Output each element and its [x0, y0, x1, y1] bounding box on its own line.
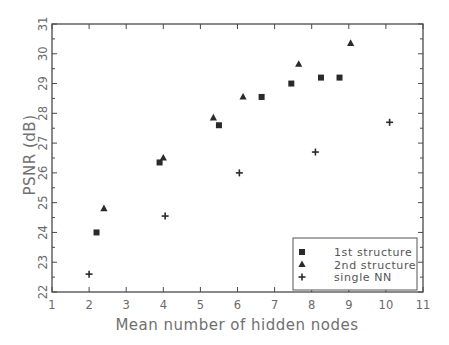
y-tick-label: 23 — [36, 255, 50, 270]
square-marker — [94, 229, 100, 235]
x-tick-label: 9 — [345, 298, 352, 312]
legend: 1st structure2nd structuresingle NN — [293, 238, 417, 290]
legend-label: 2nd structure — [334, 259, 416, 272]
triangle-marker — [210, 114, 217, 121]
y-axis-label: PSNR (dB) — [21, 115, 39, 196]
x-tick-label: 7 — [271, 298, 278, 312]
y-tick-label: 24 — [36, 225, 50, 240]
plus-marker — [386, 119, 393, 126]
x-tick-label: 3 — [123, 298, 130, 312]
psnr-scatter-chart: 1234567891011 22232425262728293031 Mean … — [0, 0, 449, 345]
x-tick-label: 5 — [197, 298, 204, 312]
legend-label: 1st structure — [334, 246, 412, 259]
legend-square-icon — [299, 249, 305, 255]
square-marker — [318, 75, 324, 81]
plus-marker — [86, 271, 93, 278]
y-tick-label: 29 — [36, 76, 50, 91]
plus-marker — [312, 149, 319, 156]
triangle-marker — [239, 93, 246, 100]
y-tick-label: 31 — [36, 17, 50, 32]
y-tick-label: 22 — [36, 285, 50, 300]
x-tick-label: 4 — [160, 298, 167, 312]
legend-label: single NN — [334, 271, 392, 284]
triangle-marker — [160, 154, 167, 161]
x-tick-label: 8 — [308, 298, 315, 312]
x-tick-label: 6 — [234, 298, 241, 312]
y-tick-label: 30 — [36, 46, 50, 61]
triangle-marker — [347, 39, 354, 46]
plus-marker — [236, 169, 243, 176]
triangle-marker — [295, 60, 302, 67]
plus-marker — [162, 213, 169, 220]
x-tick-label: 2 — [85, 298, 92, 312]
square-marker — [288, 81, 294, 87]
y-tick-label: 25 — [36, 195, 50, 210]
square-marker — [259, 94, 265, 100]
x-tick-labels: 1234567891011 — [48, 298, 430, 312]
x-tick-label: 10 — [379, 298, 394, 312]
x-axis-label: Mean number of hidden nodes — [115, 316, 358, 334]
x-tick-label: 11 — [416, 298, 431, 312]
square-marker — [216, 122, 222, 128]
triangle-marker — [100, 205, 107, 212]
square-marker — [337, 75, 343, 81]
